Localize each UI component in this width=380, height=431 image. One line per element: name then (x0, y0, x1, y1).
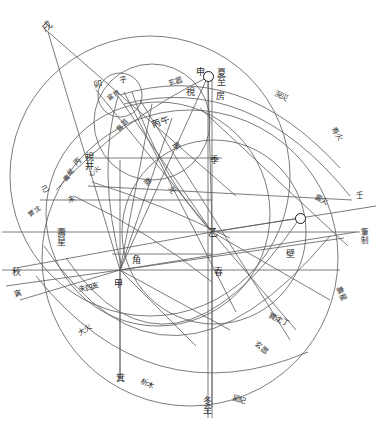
diagram-canvas (0, 0, 380, 431)
ray-yi-to-upper-left-2 (118, 96, 212, 232)
arc-upper-right-band (120, 86, 340, 168)
ray-jia-to-right (120, 232, 356, 270)
ray-jia-to-upper-right (120, 104, 152, 270)
arc-segment-d (132, 92, 210, 230)
chord-down-right-2 (124, 92, 236, 312)
chord-center-diagonal (88, 186, 352, 200)
arc-left-sweep (56, 76, 210, 190)
ray-yi-to-marker-top (208, 76, 212, 232)
ray-jia-to-xu (48, 32, 120, 270)
node-marker-east[interactable] (295, 213, 306, 224)
ray-yi-to-right-edge (212, 206, 376, 232)
chord-right-diagonal (200, 108, 348, 246)
ray-jia-to-lower-right (120, 270, 230, 330)
astronomical-diagram: 戌卯子鵉首玄嚣申夏至視房淣災寿火丙午鵉首辰季視井丙心火鵉尾鼎元己未實沈壽星秋寅角… (0, 0, 380, 431)
small-upper-circle (94, 64, 210, 180)
outer-lower-circle (42, 110, 338, 406)
arc-bottom-rim (36, 276, 308, 373)
chord-down-right (140, 100, 290, 340)
ray-jia-to-lower-left (20, 270, 120, 300)
node-marker-summer-solstice[interactable] (203, 71, 214, 82)
arc-segment-b (74, 196, 212, 282)
ray-jia-to-left-edge (6, 270, 120, 286)
